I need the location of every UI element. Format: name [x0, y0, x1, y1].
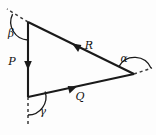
vector-triangle-svg: P Q R β γ α — [0, 0, 156, 135]
vector-label-Q: Q — [75, 90, 84, 103]
vector-label-P: P — [7, 55, 16, 68]
arrowhead-P-icon — [24, 61, 32, 70]
angle-label-alpha: α — [120, 52, 127, 64]
angle-label-beta: β — [7, 27, 14, 39]
angle-label-gamma: γ — [40, 105, 47, 117]
arrowhead-R-icon — [72, 44, 81, 52]
vector-diagram: P Q R β γ α — [0, 0, 156, 135]
reference-dash-right-icon — [134, 68, 152, 74]
vector-label-R: R — [84, 39, 93, 52]
vector-line-R — [28, 22, 134, 74]
